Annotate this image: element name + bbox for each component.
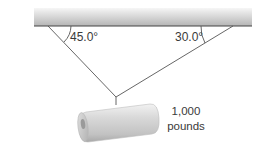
left-angle-label: 45.0° [70, 31, 98, 44]
weight-unit: pounds [164, 119, 208, 134]
cylinder-load [76, 104, 159, 142]
diagram-canvas [0, 0, 264, 156]
weight-value: 1,000 [164, 104, 208, 119]
ceiling [34, 8, 252, 26]
load-weight-label: 1,000 pounds [164, 104, 208, 134]
right-angle-label: 30.0° [175, 31, 203, 44]
